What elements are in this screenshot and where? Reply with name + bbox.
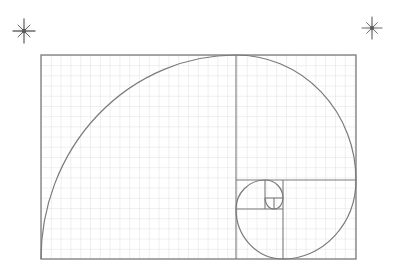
- sparkle-left-icon: [13, 19, 35, 43]
- golden-spiral-diagram: [0, 0, 398, 277]
- sparkle-right-icon: [362, 17, 382, 39]
- grid-paper: [41, 55, 356, 259]
